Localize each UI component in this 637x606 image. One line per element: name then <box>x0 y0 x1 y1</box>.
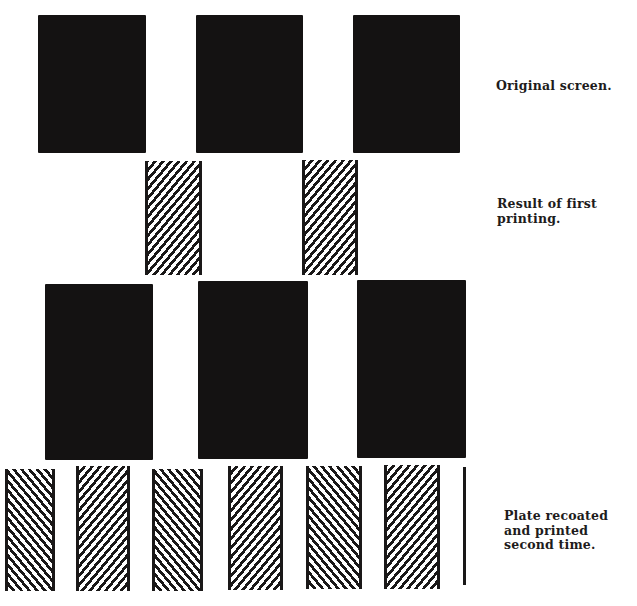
first-print-hatch-1 <box>145 161 202 275</box>
second-print-hatch-5 <box>306 466 362 589</box>
first-print-hatch-2 <box>302 160 358 275</box>
second-print-edge-line <box>463 467 466 585</box>
label-first-printing: Result of first printing. <box>497 197 597 226</box>
second-print-hatch-4 <box>228 466 283 590</box>
recoated-screen-block-2 <box>198 281 308 459</box>
original-screen-block-2 <box>196 15 303 153</box>
original-screen-block-1 <box>38 15 146 153</box>
recoated-screen-block-1 <box>45 284 153 460</box>
label-original-screen: Original screen. <box>496 79 612 94</box>
second-print-hatch-3 <box>152 469 203 591</box>
second-print-hatch-1 <box>5 469 55 591</box>
screen-printing-diagram: Original screen. Result of first printin… <box>0 0 637 606</box>
recoated-screen-block-3 <box>357 280 466 458</box>
original-screen-block-3 <box>353 15 460 153</box>
second-print-hatch-6 <box>384 465 440 589</box>
second-print-hatch-2 <box>76 466 130 591</box>
label-second-printing: Plate recoated and printed second time. <box>504 509 608 553</box>
